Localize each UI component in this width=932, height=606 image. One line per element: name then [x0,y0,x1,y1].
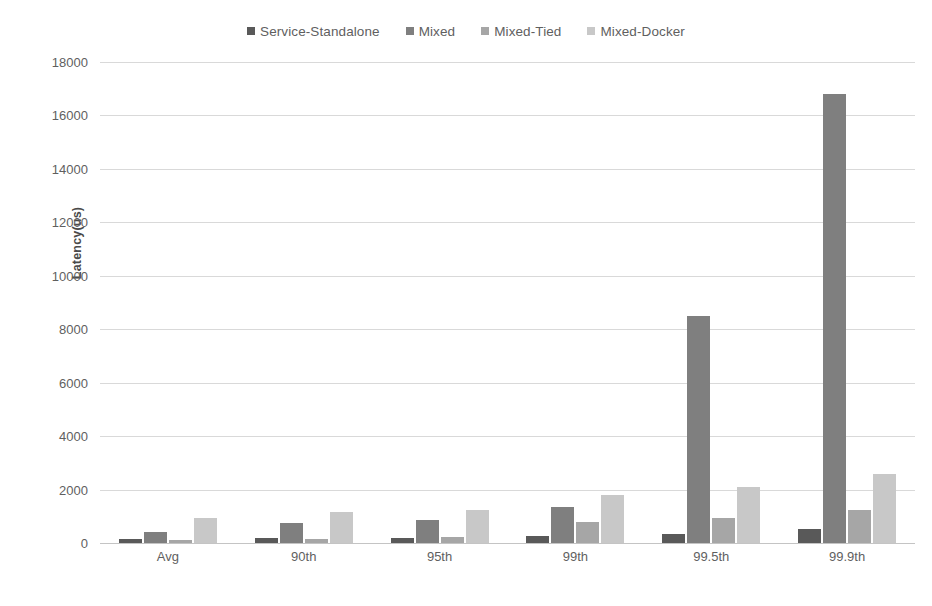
y-tick-label: 16000 [28,108,88,123]
latency-bar-chart: Service-StandaloneMixedMixed-TiedMixed-D… [0,0,932,606]
x-tick-label: 90th [236,549,372,564]
x-tick-label: 95th [372,549,508,564]
y-tick-label: 0 [28,536,88,551]
y-tick-label: 10000 [28,268,88,283]
y-axis-tick-labels: 1800016000140001200010000800060004000200… [26,62,88,543]
x-tick-label: 99.5th [643,549,779,564]
y-tick-label: 18000 [28,55,88,70]
y-tick-label: 12000 [28,215,88,230]
x-tick-label: 99th [508,549,644,564]
x-tick-label: 99.9th [779,549,915,564]
y-tick-label: 6000 [28,375,88,390]
x-tick-label: Avg [100,549,236,564]
y-tick-label: 8000 [28,322,88,337]
y-tick-label: 4000 [28,429,88,444]
x-axis-tick-labels: Avg90th95th99th99.5th99.9th [100,0,915,606]
y-tick-label: 14000 [28,161,88,176]
y-tick-label: 2000 [28,482,88,497]
